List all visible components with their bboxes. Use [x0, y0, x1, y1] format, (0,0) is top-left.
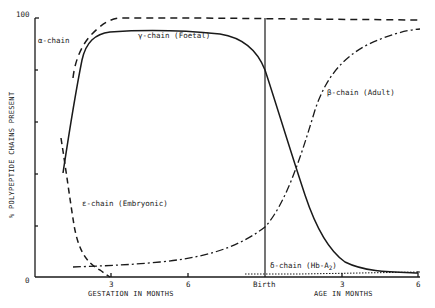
gamma-chain-line — [63, 31, 418, 273]
x-axis-title-age: AGE IN MONTHS — [314, 290, 373, 298]
x-axis-title-gestation: GESTATION IN MONTHS — [88, 290, 174, 298]
beta-chain-label: β-chain (Adult) — [327, 88, 395, 97]
x-tick-label-g6: 6 — [186, 280, 191, 289]
x-tick-label-a3: 3 — [340, 280, 345, 289]
y-tick-label-100: 100 — [16, 10, 30, 19]
origin-label: 0 — [25, 276, 30, 285]
beta-chain-line — [73, 29, 420, 267]
delta-chain-label: δ-chain (Hb-A2) — [270, 261, 337, 271]
epsilon-chain-label: ε-chain (Embryonic) — [82, 199, 168, 208]
alpha-chain-label: α-chain — [38, 36, 70, 45]
x-tick-label-a6: 6 — [416, 280, 421, 289]
y-axis-title: % POLYPEPTIDE CHAINS PRESENT — [8, 91, 16, 218]
axes — [35, 18, 420, 277]
x-tick-label-g3: 3 — [109, 280, 114, 289]
x-tick-label-birth: Birth — [253, 280, 276, 289]
alpha-chain-line — [73, 18, 420, 78]
gamma-chain-label: γ-chain (Foetal) — [138, 31, 210, 40]
haemoglobin-chain-chart: α-chain γ-chain (Foetal) ε-chain (Embryo… — [0, 0, 435, 308]
